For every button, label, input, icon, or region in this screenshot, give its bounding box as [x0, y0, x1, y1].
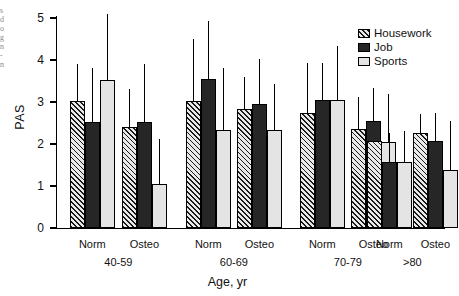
empty-swatch	[358, 57, 370, 66]
error-bar-sports-2	[223, 68, 224, 131]
error-bar-job-1	[144, 64, 145, 122]
bar-job-2	[201, 79, 216, 228]
x-axis-line	[56, 228, 445, 229]
bar-sports-0	[100, 80, 115, 228]
bar-sports-3	[267, 130, 282, 228]
bar-job-7	[428, 141, 443, 228]
x-sublabel-osteo-1: Osteo	[235, 239, 283, 250]
error-bar-job-0	[92, 68, 93, 122]
solid-swatch	[358, 43, 370, 52]
bar-housework-5	[351, 129, 366, 228]
error-bar-housework-2	[193, 39, 194, 101]
error-bar-housework-7	[420, 114, 421, 133]
chart-legend: HouseworkJobSports	[358, 27, 432, 69]
error-bar-job-2	[208, 21, 209, 79]
x-sublabel-norm-1: Norm	[184, 239, 232, 250]
bar-job-3	[252, 104, 267, 228]
error-bar-job-6	[389, 133, 390, 162]
error-bar-sports-1	[159, 139, 160, 184]
legend-label-housework: Housework	[374, 28, 432, 40]
bar-sports-1	[152, 184, 167, 228]
bar-job-1	[137, 122, 152, 228]
x-group-label-2: 70-79	[318, 257, 378, 268]
error-bar-housework-0	[77, 64, 78, 101]
legend-label-sports: Sports	[374, 56, 407, 68]
x-group-label-0: 40-59	[88, 257, 148, 268]
error-bar-job-5	[373, 88, 374, 121]
bar-housework-7	[413, 133, 428, 228]
bar-sports-6	[397, 162, 412, 228]
legend-item-job: Job	[358, 41, 432, 54]
bar-sports-4	[330, 100, 345, 228]
x-axis-title: Age, yr	[0, 275, 455, 289]
error-bar-job-7	[435, 113, 436, 141]
bar-housework-6	[367, 141, 382, 228]
hatch-swatch	[358, 29, 370, 38]
legend-item-housework: Housework	[358, 27, 432, 40]
error-bar-job-3	[259, 59, 260, 104]
x-sublabel-osteo-3: Osteo	[411, 239, 459, 250]
legend-label-job: Job	[374, 42, 393, 54]
x-group-label-3: >80	[382, 257, 442, 268]
error-bar-sports-4	[337, 46, 338, 100]
bar-job-0	[85, 122, 100, 228]
error-bar-housework-4	[307, 63, 308, 113]
error-bar-housework-3	[244, 77, 245, 109]
error-bar-sports-0	[107, 14, 108, 80]
error-bar-job-4	[322, 63, 323, 100]
bar-housework-0	[70, 101, 85, 228]
bar-housework-3	[237, 109, 252, 228]
bar-job-6	[382, 162, 397, 228]
error-bar-sports-7	[450, 121, 451, 170]
x-sublabel-osteo-0: Osteo	[120, 239, 168, 250]
x-sublabel-norm-2: Norm	[298, 239, 346, 250]
x-sublabel-norm-3: Norm	[365, 239, 413, 250]
bar-housework-2	[186, 101, 201, 228]
error-bar-sports-6	[404, 131, 405, 163]
error-bar-housework-5	[358, 97, 359, 129]
legend-item-sports: Sports	[358, 55, 432, 68]
bar-job-4	[315, 100, 330, 228]
bar-sports-2	[216, 130, 231, 228]
bar-housework-4	[300, 113, 315, 228]
x-sublabel-norm-0: Norm	[68, 239, 116, 250]
error-bar-housework-1	[129, 89, 130, 127]
x-group-label-1: 60-69	[204, 257, 264, 268]
error-bar-sports-3	[274, 84, 275, 130]
bar-sports-7	[443, 170, 458, 228]
bar-housework-1	[122, 127, 137, 228]
